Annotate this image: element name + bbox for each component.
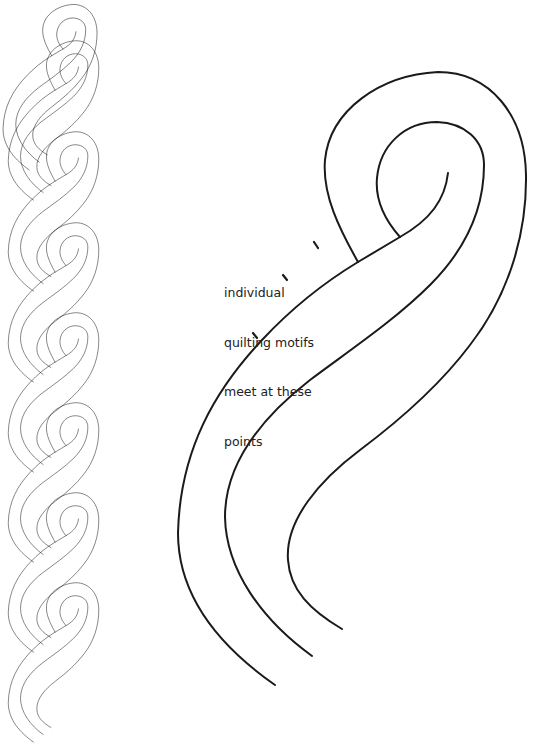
- annotation-line-2: quilting motifs: [224, 335, 314, 352]
- annotation-line-4: points: [224, 434, 314, 451]
- annotation-label: individual quilting motifs meet at these…: [224, 252, 314, 467]
- annotation-line-1: individual: [224, 285, 314, 302]
- chain-border-motifs: [8, 41, 98, 742]
- tick-mark: [314, 242, 318, 248]
- annotation-line-3: meet at these: [224, 384, 314, 401]
